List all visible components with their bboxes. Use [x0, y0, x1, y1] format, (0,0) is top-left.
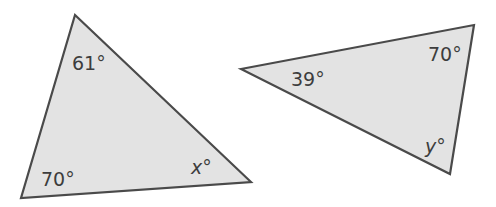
left-right-angle-label-x: x° — [190, 156, 212, 178]
right-bottom-angle-label-y: y° — [424, 135, 446, 157]
left-bottom-left-angle-label: 70° — [41, 168, 75, 190]
triangle-angles-diagram: 61° 70° x° 39° 70° y° — [0, 0, 496, 207]
left-top-angle-label: 61° — [72, 52, 106, 74]
right-left-angle-label: 39° — [291, 68, 325, 90]
right-top-right-angle-label: 70° — [428, 43, 462, 65]
